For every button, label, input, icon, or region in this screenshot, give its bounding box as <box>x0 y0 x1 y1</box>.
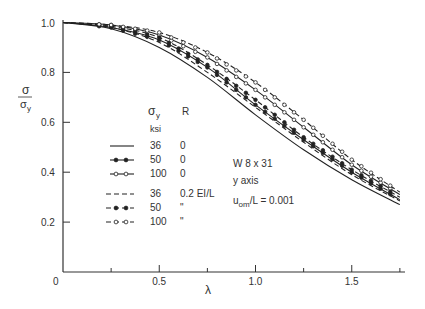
y-tick-label: 0.4 <box>41 167 55 178</box>
svg-text:R: R <box>182 106 189 117</box>
ticks <box>63 23 400 273</box>
series-line <box>63 23 400 193</box>
x-tick-label: 1.0 <box>249 276 263 287</box>
tick-labels: 0.51.01.50.20.40.60.81.0 <box>41 18 359 288</box>
svg-text:W 8 x 31: W 8 x 31 <box>233 158 273 169</box>
annotations: W 8 x 31 y axis uom/L = 0.001 <box>233 158 295 209</box>
svg-text:σ: σ <box>20 98 27 110</box>
svg-text:": " <box>180 216 184 227</box>
svg-text:y: y <box>27 104 31 113</box>
svg-text:y axis: y axis <box>233 175 259 186</box>
series-line <box>63 23 400 205</box>
origin-label: 0 <box>53 276 59 287</box>
x-axis-label: λ <box>205 283 211 297</box>
legend-item: 1000 <box>110 168 186 179</box>
legend: σ y R ksi 3605001000360.2 EI/L50"100" <box>106 104 215 227</box>
column-strength-chart: 0.51.01.50.20.40.60.81.0 0 λ σ σ y σ y R… <box>0 0 425 309</box>
svg-text:100: 100 <box>150 216 167 227</box>
svg-text:uom/L = 0.001: uom/L = 0.001 <box>233 195 295 209</box>
svg-text:0.2 EI/L: 0.2 EI/L <box>180 188 215 199</box>
svg-text:0: 0 <box>180 168 186 179</box>
svg-text:100: 100 <box>150 168 167 179</box>
svg-text:0: 0 <box>180 140 186 151</box>
svg-text:": " <box>180 202 184 213</box>
y-tick-label: 0.2 <box>41 217 55 228</box>
curves <box>63 23 400 205</box>
legend-item: 50" <box>106 202 184 213</box>
svg-text:σ: σ <box>22 83 30 97</box>
svg-text:0: 0 <box>180 154 186 165</box>
svg-text:50: 50 <box>150 202 162 213</box>
y-tick-label: 1.0 <box>41 18 55 29</box>
svg-text:ksi: ksi <box>150 124 161 134</box>
y-tick-label: 0.8 <box>41 67 55 78</box>
y-tick-label: 0.6 <box>41 117 55 128</box>
legend-item: 360 <box>110 140 186 151</box>
svg-text:σ: σ <box>148 104 156 118</box>
y-axis-label: σ σ y <box>18 83 32 113</box>
legend-item: 500 <box>110 154 186 165</box>
legend-item: 360.2 EI/L <box>106 188 215 199</box>
svg-text:36: 36 <box>150 188 162 199</box>
svg-text:50: 50 <box>150 154 162 165</box>
legend-item: 100" <box>106 216 184 227</box>
x-tick-label: 0.5 <box>152 276 166 287</box>
x-tick-label: 1.5 <box>345 276 359 287</box>
svg-text:y: y <box>156 111 160 120</box>
svg-text:36: 36 <box>150 140 162 151</box>
